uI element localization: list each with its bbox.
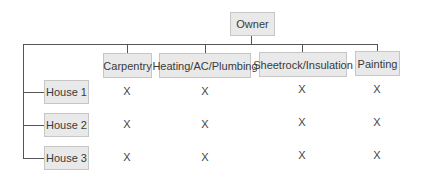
sheetrock-connector	[302, 44, 303, 52]
heating-connector	[205, 44, 206, 53]
mark-house2-sheetrock: X	[296, 116, 308, 128]
carpentry-connector	[127, 44, 128, 53]
trade-node-painting: Painting	[355, 51, 400, 76]
top-horizontal-line	[23, 44, 378, 45]
mark-house2-carpentry: X	[121, 118, 133, 130]
mark-house1-carpentry: X	[121, 85, 133, 97]
house-3-connector	[23, 158, 44, 159]
house-node-1: House 1	[44, 80, 89, 104]
mark-house1-painting: X	[371, 83, 383, 95]
painting-connector	[377, 44, 378, 51]
left-vertical-line	[23, 44, 24, 159]
trade-node-heating-ac-plumbing: Heating/AC/Plumbing	[159, 53, 251, 78]
owner-node: Owner	[230, 12, 275, 36]
house-2-connector	[23, 125, 44, 126]
trade-node-sheetrock-insulation: Sheetrock/Insulation	[259, 52, 347, 77]
org-chart-diagram: Owner Carpentry Heating/AC/Plumbing Shee…	[0, 0, 425, 183]
mark-house3-carpentry: X	[121, 151, 133, 163]
mark-house3-sheetrock: X	[296, 149, 308, 161]
trade-node-carpentry: Carpentry	[103, 53, 152, 78]
mark-house2-painting: X	[371, 116, 383, 128]
mark-house1-heating: X	[199, 85, 211, 97]
mark-house3-painting: X	[371, 149, 383, 161]
house-node-2: House 2	[44, 113, 89, 137]
mark-house1-sheetrock: X	[296, 83, 308, 95]
mark-house2-heating: X	[199, 118, 211, 130]
house-1-connector	[23, 92, 44, 93]
house-node-3: House 3	[44, 146, 89, 170]
mark-house3-heating: X	[199, 151, 211, 163]
